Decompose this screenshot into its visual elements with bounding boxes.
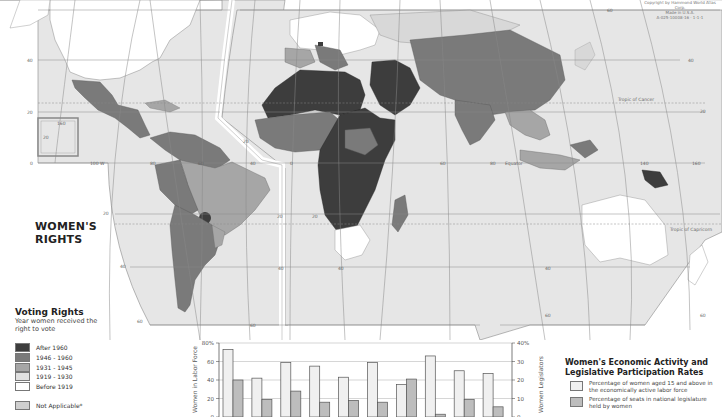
bar-labor-force [396,385,406,417]
svg-text:100 W: 100 W [90,161,105,166]
bar-legislature [464,399,474,417]
bar-labor-force [483,374,493,417]
title-line-2: RIGHTS [35,233,97,246]
svg-text:60: 60 [700,313,706,318]
y-tick-right: 30 [517,359,524,365]
voting-legend-heading: Voting Rights [15,307,105,317]
svg-text:40: 40 [545,266,551,271]
bar-legislature [406,379,416,417]
legend-label: Percentage of seats in national legislat… [589,396,719,409]
map-imprint: Copyright by Hammond World Atlas Corp. M… [640,0,720,20]
econ-legend-item-legislature: Percentage of seats in national legislat… [565,396,722,409]
economic-activity-legend: Women's Economic Activity and Legislativ… [565,358,722,409]
econ-heading-line: Legislative Participation Rates [565,368,722,378]
swatch-after-1960 [15,343,30,352]
y-tick-left: 20 [207,396,214,402]
svg-text:80: 80 [490,161,496,166]
legend-label: 1919 - 1930 [36,373,73,380]
legend-label: After 1960 [36,344,68,351]
y-tick-left: 60 [207,359,214,365]
bar-labor-force [454,371,464,417]
svg-text:40: 40 [120,264,126,269]
map-title: WOMEN'S RIGHTS [35,220,97,246]
econ-legend-item-labor: Percentage of women aged 15 and above in… [565,380,722,393]
legend-label: 1946 - 1960 [36,354,73,361]
svg-text:80: 80 [150,161,156,166]
svg-text:20: 20 [27,110,33,115]
y-tick-right: 40% [517,340,529,346]
swatch-labor-force [570,381,583,391]
bar-labor-force [252,378,262,417]
legend-item-before-1919: Before 1919 [15,382,105,392]
svg-text:60: 60 [198,161,204,166]
econ-heading-line: Women's Economic Activity and [565,358,722,368]
swatch-1919-1930 [15,372,30,381]
legend-label: Not Applicable* [36,402,83,409]
legend-label: Percentage of women aged 15 and above in… [589,380,719,393]
svg-text:20: 20 [277,214,283,219]
swatch-1946-1960 [15,353,30,362]
legend-item-not-applicable: Not Applicable* [15,401,105,410]
svg-text:Tropic of Cancer: Tropic of Cancer [617,97,654,102]
svg-text:20: 20 [312,214,318,219]
svg-text:Tropic of Capricorn: Tropic of Capricorn [669,227,712,232]
svg-text:60: 60 [545,313,551,318]
svg-text:20: 20 [43,135,49,140]
bar-labor-force [425,356,435,417]
economic-activity-chart: 0020104020603080%40%Women in Labor Force… [185,338,550,417]
voting-rights-legend: Voting Rights Year women received the ri… [15,307,105,410]
svg-text:60: 60 [440,161,446,166]
legend-label: 1931 - 1945 [36,364,73,371]
svg-text:0: 0 [30,161,33,166]
y-tick-left: 40 [207,377,214,383]
swatch-before-1919 [15,382,30,391]
bar-legislature [349,400,359,417]
bar-legislature [233,380,243,417]
svg-text:60: 60 [250,323,256,328]
y-tick-left: 80% [202,340,214,346]
imprint-line: A-025-10008-16 · 1-1-1 [640,15,720,20]
voting-legend-subtitle: Year women received the right to vote [15,317,105,333]
svg-text:60: 60 [137,319,143,324]
svg-text:Equator: Equator [505,161,523,166]
title-line-1: WOMEN'S [35,220,97,233]
svg-text:160: 160 [57,121,66,126]
svg-text:20: 20 [243,139,249,144]
world-map: 40 20 0 100 W 80 60 40 20 0 60 80 Equato… [0,0,722,340]
svg-text:40: 40 [278,266,284,271]
bar-labor-force [339,377,349,417]
legend-label: Before 1919 [36,383,73,390]
y-tick-right: 20 [517,377,524,383]
svg-text:20: 20 [103,211,109,216]
svg-text:40: 40 [27,58,33,63]
svg-text:140: 140 [640,161,649,166]
svg-text:60: 60 [607,8,613,13]
legend-item-1931-1945: 1931 - 1945 [15,362,105,372]
swatch-1931-1945 [15,363,30,372]
econ-legend-heading: Women's Economic Activity and Legislativ… [565,358,722,377]
bar-legislature [493,407,503,417]
svg-text:40: 40 [688,58,694,63]
swatch-not-applicable [15,401,30,410]
bar-legislature [378,402,388,417]
bar-legislature [320,402,330,417]
bar-labor-force [223,349,233,417]
svg-text:0: 0 [290,161,293,166]
bar-chart: 0020104020603080%40%Women in Labor Force… [185,338,550,417]
svg-text:160: 160 [692,161,701,166]
svg-text:40: 40 [250,161,256,166]
y-tick-right: 10 [517,396,524,402]
imprint-line: Copyright by Hammond World Atlas Corp. [640,0,720,10]
y-axis-label-left: Women in Labor Force [191,346,198,413]
svg-text:20: 20 [700,109,706,114]
svg-text:40: 40 [338,266,344,271]
bar-labor-force [368,362,378,417]
legend-item-after-1960: After 1960 [15,343,105,353]
swatch-legislature [570,397,583,407]
legend-item-1919-1930: 1919 - 1930 [15,372,105,382]
bar-labor-force [281,362,291,417]
bar-legislature [262,399,272,417]
bar-legislature [291,391,301,417]
y-axis-label-right: Women Legislators [537,356,545,413]
legend-item-1946-1960: 1946 - 1960 [15,353,105,363]
